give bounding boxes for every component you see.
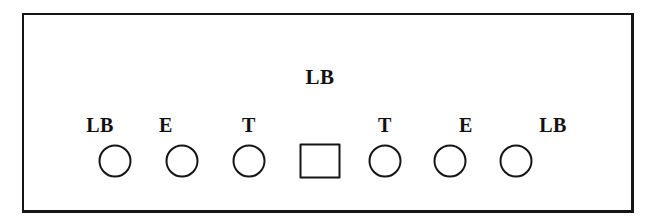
circle-node-2 <box>233 145 266 178</box>
node-label-5: E <box>459 115 473 135</box>
circle-node-0 <box>99 145 132 178</box>
outer-frame <box>22 13 634 213</box>
circle-node-1 <box>166 145 199 178</box>
circle-node-4 <box>369 145 402 178</box>
node-label-6: LB <box>539 115 567 135</box>
node-label-4: T <box>378 115 392 135</box>
square-node-3 <box>300 144 341 179</box>
node-label-1: E <box>159 115 173 135</box>
root-node-label: LB <box>305 67 334 88</box>
figure-canvas: LB LBETTELB <box>0 0 651 223</box>
circle-node-5 <box>434 145 467 178</box>
node-label-2: T <box>242 115 256 135</box>
circle-node-6 <box>500 145 533 178</box>
node-label-0: LB <box>86 115 114 135</box>
